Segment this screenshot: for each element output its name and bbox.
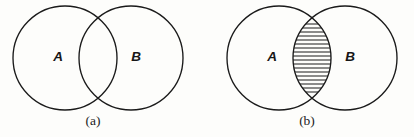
- set-label-b-panel-a: B: [131, 49, 141, 64]
- panel-b: A B (b): [227, 6, 397, 128]
- set-label-a-panel-b: A: [266, 49, 277, 64]
- venn-figure: A B (a) A B (b): [0, 0, 414, 137]
- caption-panel-a: (a): [86, 113, 101, 128]
- set-label-b-panel-b: B: [345, 49, 355, 64]
- caption-panel-b: (b): [299, 113, 315, 128]
- panel-a: A B (a): [13, 6, 183, 128]
- set-label-a-panel-a: A: [52, 49, 63, 64]
- figure-canvas: A B (a) A B (b): [0, 0, 414, 137]
